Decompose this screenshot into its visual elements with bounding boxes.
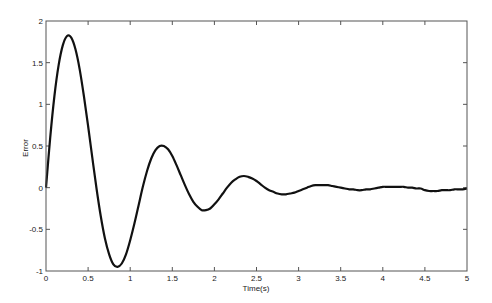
x-tick-label: 5 [465,274,470,283]
x-tick-label: 1 [128,274,133,283]
x-tick-label: 4.5 [419,274,431,283]
y-tick-label: -0.5 [29,225,43,234]
x-tick-label: 2 [212,274,217,283]
y-tick-label: 1 [39,100,44,109]
x-tick-label: 1.5 [167,274,179,283]
y-axis-label: Error [21,139,30,157]
x-tick-label: 3 [296,274,301,283]
y-tick-label: 0.5 [32,142,44,151]
x-axis-label: Time(s) [243,284,270,293]
x-tick-label: 2.5 [251,274,263,283]
y-tick-label: -1 [36,267,44,276]
x-tick-label: 3.5 [335,274,347,283]
y-tick-label: 2 [39,17,44,26]
y-tick-label: 0 [39,184,44,193]
x-tick-label: 0 [44,274,49,283]
x-tick-label: 4 [381,274,386,283]
x-tick-label: 0.5 [83,274,95,283]
line-chart: 00.511.522.533.544.55-1-0.500.511.52 Tim… [0,0,492,303]
y-tick-label: 1.5 [32,59,44,68]
